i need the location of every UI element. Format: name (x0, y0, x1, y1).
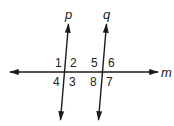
angle-3: 3 (69, 75, 76, 89)
angle-2: 2 (70, 56, 77, 70)
angle-4: 4 (53, 75, 60, 89)
angle-6: 6 (108, 56, 115, 70)
diagram-canvas: p q m 1 2 4 3 5 6 8 7 (0, 0, 174, 126)
angle-7: 7 (106, 75, 113, 89)
label-m: m (161, 65, 172, 80)
angle-8: 8 (90, 75, 97, 89)
label-p: p (64, 7, 72, 22)
label-q: q (103, 7, 111, 22)
angle-1: 1 (55, 56, 62, 70)
angle-5: 5 (91, 56, 98, 70)
